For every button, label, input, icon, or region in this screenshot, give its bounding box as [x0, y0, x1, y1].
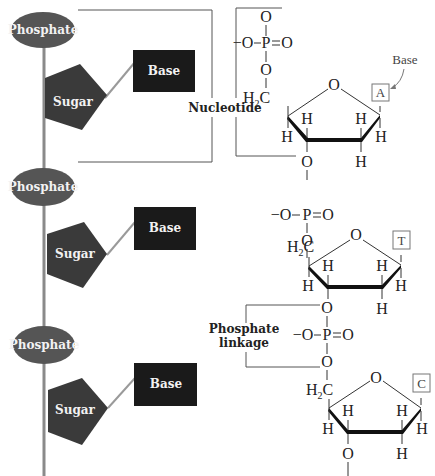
arrowhead-icon — [390, 84, 396, 89]
nucleotide-bracket-left-lower — [78, 117, 212, 162]
sugar-label: Sugar — [53, 95, 94, 109]
atom-H: H — [301, 110, 313, 127]
atom-O: O — [281, 34, 293, 51]
ring-O: O — [350, 226, 362, 243]
base-A-letter: A — [376, 85, 386, 100]
deoxyribose-ring-1: H2C O H H H H H O A — [243, 76, 389, 180]
atom-P: P — [323, 326, 332, 343]
base-callout-label: Base — [392, 52, 418, 67]
atom-O: O — [321, 353, 333, 370]
atom-O: O — [321, 299, 333, 316]
ring-O: O — [328, 76, 340, 93]
sugar-base-connector — [105, 62, 135, 98]
base-callout-arrow — [392, 69, 404, 88]
atom-O: O — [342, 326, 354, 343]
atom-O-minus: −O — [233, 34, 254, 51]
atom-H: H — [395, 277, 407, 294]
atom-O-minus: −O — [271, 206, 292, 223]
atom-H2C: H2C — [306, 381, 333, 401]
atom-P: P — [303, 206, 312, 223]
atom-H: H — [396, 445, 408, 462]
phosphate-label: Phosphate — [8, 23, 79, 37]
dna-structure-diagram: Sugar Base Phosphate Sugar Base Phosphat… — [0, 0, 435, 476]
atom-H: H — [396, 402, 408, 419]
atom-H: H — [281, 128, 293, 145]
atom-H: H — [322, 257, 334, 274]
phosphate-group-1: O −O P O O — [233, 8, 293, 88]
deoxyribose-ring-3: H2C O H H H H H O C — [306, 369, 430, 476]
base-label: Base — [148, 64, 181, 78]
nucleotide-unit-2: Sugar Base Phosphate — [8, 168, 196, 288]
atom-O: O — [260, 8, 272, 25]
base-label: Base — [149, 221, 182, 235]
atom-H: H — [416, 420, 428, 437]
base-C-letter: C — [417, 376, 426, 391]
phosphate-linkage-bracket-top — [246, 305, 320, 323]
atom-H: H — [376, 257, 388, 274]
phosphate-group-3: O −O P O O — [293, 299, 354, 380]
sugar-label: Sugar — [55, 247, 96, 261]
base-label: Base — [150, 377, 183, 391]
atom-O: O — [260, 61, 272, 78]
nucleotide-unit-3: Sugar Base Phosphate — [9, 326, 197, 445]
sugar-base-connector — [108, 378, 135, 408]
atom-H: H — [322, 420, 334, 437]
atom-H: H — [342, 402, 354, 419]
sugar-label: Sugar — [55, 403, 96, 417]
atom-O: O — [342, 445, 354, 462]
atom-O-minus: −O — [293, 326, 314, 343]
phosphate-linkage-label-line1: Phosphate — [209, 322, 280, 336]
atom-H: H — [375, 128, 387, 145]
atom-O: O — [322, 206, 334, 223]
phosphate-label: Phosphate — [9, 338, 80, 352]
atom-H: H — [376, 300, 388, 317]
deoxyribose-ring-2: H2C O H H H H H T — [287, 226, 410, 317]
atom-H: H — [302, 277, 314, 294]
atom-H: H — [355, 110, 367, 127]
base-T-letter: T — [398, 233, 406, 248]
phosphate-label: Phosphate — [8, 180, 79, 194]
phosphate-linkage-label-line2: linkage — [219, 336, 269, 350]
atom-O: O — [301, 153, 313, 170]
nucleotide-unit-1: Sugar Base Phosphate — [8, 12, 195, 130]
nucleotide-bracket-right — [236, 8, 282, 98]
atom-P: P — [262, 34, 271, 51]
atom-H: H — [355, 153, 367, 170]
phosphate-linkage-bracket-bottom — [246, 352, 320, 367]
ring-O: O — [370, 369, 382, 386]
sugar-base-connector — [107, 222, 135, 255]
